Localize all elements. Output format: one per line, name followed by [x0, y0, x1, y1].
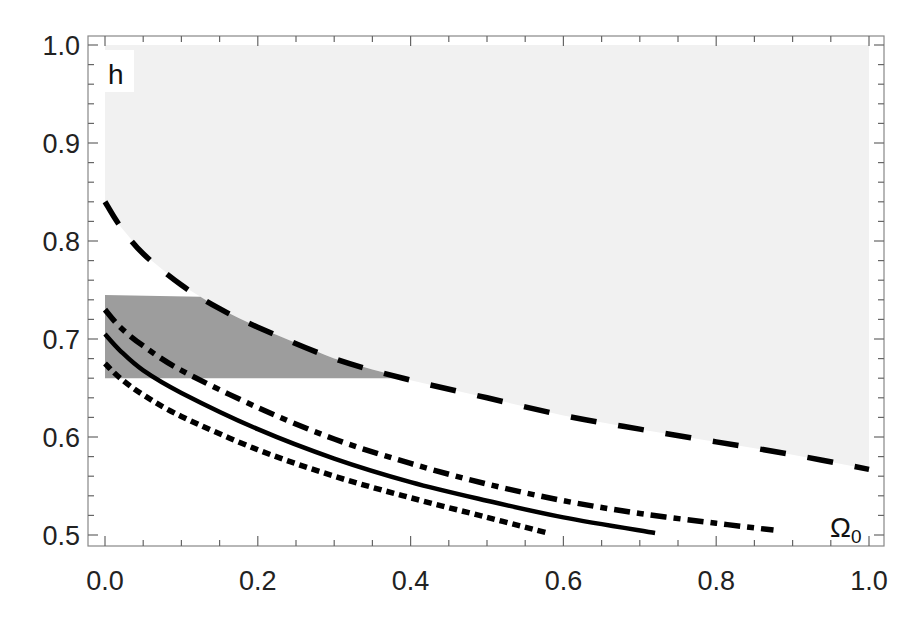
y-tick-label: 0.8	[42, 227, 80, 257]
x-axis-label: Ω0	[830, 512, 862, 547]
x-tick-label: 0.0	[86, 566, 124, 596]
y-tick-label: 0.9	[42, 129, 80, 159]
y-tick-label: 0.5	[42, 521, 80, 551]
y-tick-labels: 0.50.60.70.80.91.0	[42, 31, 80, 551]
excluded-region	[105, 45, 869, 469]
y-tick-label: 0.7	[42, 325, 80, 355]
y-tick-label: 1.0	[42, 31, 80, 61]
y-tick-label: 0.6	[42, 423, 80, 453]
y-axis-label: h	[108, 59, 124, 90]
x-tick-label: 0.4	[392, 566, 430, 596]
x-tick-labels: 0.00.20.40.60.81.0	[86, 566, 888, 596]
x-axis-label-main: Ω	[830, 512, 851, 543]
x-tick-label: 0.6	[545, 566, 583, 596]
x-axis-label-subscript: 0	[851, 526, 862, 547]
regions-layer	[105, 45, 869, 469]
x-tick-label: 0.8	[697, 566, 735, 596]
chart: 0.00.20.40.60.81.0 0.50.60.70.80.91.0 h …	[0, 0, 919, 618]
x-tick-label: 0.2	[239, 566, 277, 596]
x-tick-label: 1.0	[850, 566, 888, 596]
